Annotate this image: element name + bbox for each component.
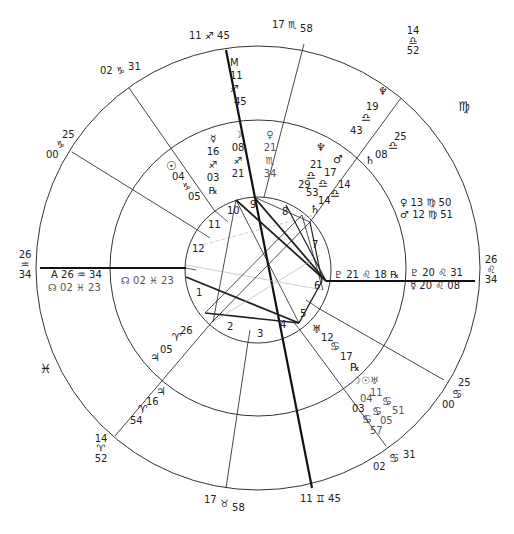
cusp-minute: 34 bbox=[16, 270, 34, 280]
asc-degree: 26 bbox=[61, 269, 74, 280]
cusp-label-5: 14 ♈ 52 bbox=[92, 434, 110, 464]
node-outer-label: ☊ 02 ♓ 23 bbox=[48, 283, 101, 293]
house-number: 7 bbox=[312, 240, 318, 250]
house-number: 4 bbox=[280, 320, 286, 330]
cusp-label-12: 14 ♎ 52 bbox=[404, 26, 422, 56]
asc-letter: A bbox=[51, 269, 58, 280]
node-inner-label: ☊ 02 ♓ 23 bbox=[121, 276, 174, 286]
cusp-label-2: 02 ♋ 31 bbox=[373, 452, 416, 464]
cusp-minute: 45 bbox=[217, 30, 230, 41]
saturn-minute: 14 bbox=[318, 196, 331, 206]
neptune-minute: 43 bbox=[350, 126, 363, 136]
scorpio-icon: ♏ bbox=[288, 19, 297, 30]
house-number: 12 bbox=[192, 244, 205, 254]
cusp-minute: 58 bbox=[300, 23, 313, 34]
libra-icon: ♎ bbox=[361, 112, 371, 123]
moon-transit-minute: 57 bbox=[370, 426, 383, 436]
cusp-minute: 45 bbox=[328, 493, 341, 504]
asc-minute: 34 bbox=[89, 269, 102, 280]
saturn-degree: 14 bbox=[338, 180, 351, 190]
virgo-icon: ♍ bbox=[458, 100, 470, 113]
planet-minute: 21 bbox=[230, 167, 246, 180]
jupiter-icon: ♃ bbox=[150, 352, 160, 363]
saturn-icon: ♄ bbox=[365, 155, 375, 166]
gemini-icon: ♊ bbox=[316, 493, 325, 504]
mc-ic-axis bbox=[226, 50, 312, 488]
aquarius-icon: ♒ bbox=[77, 269, 86, 280]
venus-label: ♀ 21 ♏ 34 bbox=[262, 128, 278, 180]
retrograde-icon: ℞ bbox=[350, 362, 360, 373]
libra-icon: ♎ bbox=[318, 178, 328, 189]
aries-icon: ♈ bbox=[138, 404, 148, 415]
cusp-degree: 02 bbox=[100, 65, 113, 76]
house-number: 10 bbox=[227, 206, 240, 216]
aspect-lines bbox=[186, 197, 326, 323]
cusp-degree: 00 bbox=[46, 150, 76, 160]
mc-label: M 11 ♐ 45 bbox=[230, 56, 247, 108]
cancer-icon: ♋ bbox=[362, 414, 372, 425]
mars-icon: ♂ bbox=[333, 154, 343, 165]
mc-letter: M bbox=[230, 56, 247, 69]
mercury-icon: ☿ bbox=[206, 132, 220, 145]
cusp-label-4: 17 ♉ 58 bbox=[204, 495, 245, 505]
sagittarius-icon: ♐ bbox=[205, 30, 214, 41]
cusp-label-3: 25 ♋ 00 bbox=[442, 378, 472, 410]
sagittarius-icon: ♐ bbox=[230, 82, 247, 95]
sagittarius-icon: ♐ bbox=[230, 154, 246, 167]
taurus-icon: ♉ bbox=[220, 498, 229, 509]
neptune-icon: ♆ bbox=[316, 142, 326, 153]
house-number: 1 bbox=[196, 288, 202, 298]
jupiter-minute: 54 bbox=[130, 416, 143, 426]
cusp-minute: 34 bbox=[482, 275, 500, 285]
planet-degree: 21 bbox=[262, 141, 278, 154]
planet-minute: 03 bbox=[206, 171, 220, 184]
neptune-icon: ♆ bbox=[378, 86, 388, 97]
planet-minute: 05 bbox=[188, 192, 201, 202]
sun-label: ☉ 04 ♑ 05 bbox=[166, 160, 201, 202]
planet-degree: 08 bbox=[230, 141, 246, 154]
house-number: 8 bbox=[282, 207, 288, 217]
house-number: 5 bbox=[300, 309, 306, 319]
asc-label: A 26 ♒ 34 bbox=[51, 270, 102, 280]
cusp-minute: 31 bbox=[128, 61, 141, 72]
cusp-degree: 02 bbox=[373, 461, 386, 472]
cusp-label-desc: 26 ♌ 34 bbox=[482, 255, 500, 285]
cusp-label-8: 25 ♑ 00 bbox=[46, 130, 76, 160]
venus-transit-label: ♀ 13 ♍ 50 bbox=[400, 198, 451, 208]
mercury-label: ☿ 16 ♐ 03 ℞ bbox=[206, 132, 220, 197]
mc-minute: 45 bbox=[234, 95, 247, 108]
libra-icon: ♎ bbox=[330, 188, 340, 199]
moon-label: ☽ 08 ♐ 21 bbox=[230, 128, 246, 180]
mercury-transit-label: ☿ 20 ♌ 08 bbox=[410, 281, 460, 291]
cusp-minute: 58 bbox=[232, 502, 245, 513]
cancer-icon: ♋ bbox=[330, 341, 340, 352]
saturn-degree: 08 bbox=[375, 150, 388, 160]
saturn-icon: ♄ bbox=[310, 204, 320, 215]
retrograde-icon: ℞ bbox=[206, 184, 220, 197]
cusp-degree: 11 bbox=[300, 493, 313, 504]
mars-transit-label: ♂ 12 ♍ 51 bbox=[400, 210, 453, 220]
house-number: 2 bbox=[227, 322, 233, 332]
capricorn-icon: ♑ bbox=[116, 65, 125, 76]
cusp-minute: 31 bbox=[403, 449, 416, 460]
venus-icon: ♀ bbox=[262, 128, 278, 141]
house-number: 9 bbox=[250, 200, 256, 210]
house-number: 3 bbox=[257, 329, 263, 339]
cusp-degree: 17 bbox=[272, 19, 285, 30]
pluto-transit-label: ♇ 20 ♌ 31 bbox=[410, 268, 463, 278]
moon-sun-uranus-transit-glyphs: ☽☉♅ bbox=[352, 376, 379, 386]
mars-minute: 53 bbox=[306, 188, 319, 198]
cancer-icon: ♋ bbox=[382, 396, 392, 407]
scorpio-icon: ♏ bbox=[262, 154, 278, 167]
planet-minute: 34 bbox=[262, 167, 278, 180]
cusp-degree: 00 bbox=[442, 400, 472, 410]
cusp-label-11: 17 ♏ 58 bbox=[272, 20, 313, 30]
cancer-icon: ♋ bbox=[452, 388, 472, 400]
sagittarius-icon: ♐ bbox=[206, 158, 220, 171]
capricorn-icon: ♑ bbox=[56, 140, 76, 150]
house-number: 11 bbox=[208, 220, 221, 230]
pisces-icon: ♓ bbox=[40, 362, 52, 375]
cusp-minute: 52 bbox=[404, 46, 422, 56]
jupiter-minute: 26 bbox=[180, 326, 193, 336]
cusp-label-ic: 11 ♊ 45 bbox=[300, 494, 341, 504]
